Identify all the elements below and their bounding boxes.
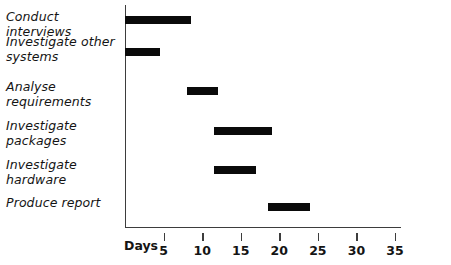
x-axis-tick <box>395 233 396 241</box>
gantt-bar <box>268 203 310 211</box>
task-label-column: Conduct interviews Investigate other sys… <box>0 0 120 230</box>
x-axis-tick-label: 30 <box>336 243 376 258</box>
x-axis-tick-label: 35 <box>375 243 415 258</box>
x-axis-tick <box>279 233 280 241</box>
gantt-bar <box>125 48 160 56</box>
task-label-produce-report: Produce report <box>6 195 120 210</box>
x-axis-line <box>125 227 401 228</box>
gantt-chart: Conduct interviews Investigate other sys… <box>0 0 451 265</box>
x-axis-tick-label: 10 <box>182 243 222 258</box>
x-axis-tick-label: 20 <box>259 243 299 258</box>
x-axis-title: Days <box>124 238 158 253</box>
plot-area: 5101520253035 <box>125 5 401 228</box>
task-label-investigate-hardware: Investigate hardware <box>6 157 120 187</box>
x-axis-tick <box>241 233 242 241</box>
gantt-bar <box>187 87 218 95</box>
task-label-investigate-packages: Investigate packages <box>6 118 120 148</box>
y-axis-line <box>125 5 126 228</box>
task-label-investigate-other-systems: Investigate other systems <box>6 34 120 64</box>
gantt-bar <box>214 127 272 135</box>
gantt-bar <box>214 166 256 174</box>
task-label-analyse-requirements: Analyse requirements <box>6 79 120 109</box>
x-axis-tick <box>164 233 165 241</box>
x-axis-tick <box>318 233 319 241</box>
gantt-bar <box>125 16 191 24</box>
x-axis-tick <box>356 233 357 241</box>
x-axis-tick-label: 15 <box>221 243 261 258</box>
x-axis-tick-label: 25 <box>298 243 338 258</box>
x-axis-tick <box>202 233 203 241</box>
